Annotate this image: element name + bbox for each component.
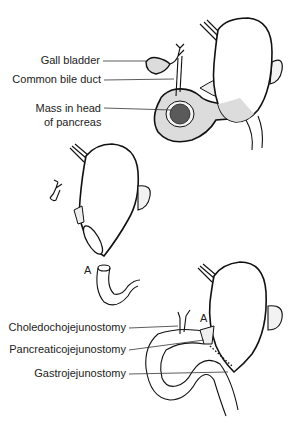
label-choledochojejunostomy: Choledochojejunostomy: [9, 321, 127, 333]
leader-gastrojejunostomy: [129, 372, 228, 374]
label-a-limb: A: [84, 264, 92, 276]
jejunal-limb: [97, 268, 138, 305]
leader-choledochojejunostomy: [129, 326, 178, 328]
label-pancreaticojejunostomy: Pancreaticojejunostomy: [9, 343, 126, 355]
panel-reconstruction: A Choledochojejunostomy Pancreaticojejun…: [9, 262, 283, 416]
gall-bladder-icon: [146, 58, 170, 75]
pancreatic-remnant: [200, 326, 214, 344]
label-of-pancreas: of pancreas: [44, 116, 102, 128]
cut-bile-duct: [50, 180, 62, 198]
label-mass-in-head: Mass in head: [36, 102, 101, 114]
label-gall-bladder: Gall bladder: [41, 54, 101, 66]
label-gastrojejunostomy: Gastrojejunostomy: [34, 367, 126, 379]
panel-preoperative: Gall bladder Common bile duct Mass in he…: [12, 18, 282, 150]
jejunum-upper-wall: [258, 116, 263, 148]
bile-duct: [178, 310, 190, 334]
spleen: [138, 186, 150, 210]
label-a-anastomosis: A: [200, 312, 208, 324]
jejunum-upper: [246, 120, 252, 150]
duodenal-stump: [74, 206, 84, 224]
jejunal-limb-wall: [109, 268, 140, 294]
jejunal-limb-end: [98, 265, 110, 271]
panel-resection: A: [50, 144, 150, 305]
stomach: [210, 262, 267, 372]
leader-pancreaticojejunostomy: [129, 340, 204, 350]
leader-common-bile-duct: [104, 79, 174, 80]
common-bile-duct-wall: [180, 56, 182, 92]
mass-in-pancreas-icon: [170, 104, 190, 124]
whipple-procedure-diagram: Gall bladder Common bile duct Mass in he…: [0, 0, 302, 441]
label-common-bile-duct: Common bile duct: [12, 73, 101, 85]
spleen: [268, 306, 282, 330]
